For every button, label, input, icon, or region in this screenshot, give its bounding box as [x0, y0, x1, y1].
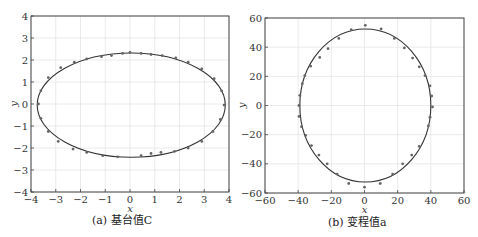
y-tick-label: 60 [249, 13, 262, 24]
data-point [418, 145, 421, 148]
data-point [300, 125, 303, 128]
data-point [57, 140, 60, 143]
data-point [429, 84, 432, 87]
data-point [85, 58, 88, 61]
data-point [213, 77, 216, 80]
data-point [304, 134, 307, 137]
data-point [403, 46, 406, 49]
data-point [380, 28, 383, 31]
x-tick-label: 4 [226, 194, 232, 205]
data-point [47, 76, 50, 79]
plot-b: −60−40−200204060−60−40−200204060xy [236, 13, 470, 216]
y-tick-label: 0 [256, 100, 262, 111]
data-point [347, 182, 350, 185]
fitted-ellipse [37, 53, 225, 157]
data-point [303, 74, 306, 77]
data-point [116, 155, 119, 158]
data-point [424, 74, 427, 77]
data-point [336, 173, 339, 176]
caption-b: (b) 变程值a [328, 213, 387, 229]
x-tick-label: −2 [73, 194, 88, 205]
data-point [100, 55, 103, 58]
x-tick-label: 20 [391, 195, 404, 206]
plot-a: −4−3−2−101234−4−3−2−101234xy [8, 11, 232, 215]
y-tick-label: −2 [13, 143, 28, 154]
data-point [161, 54, 164, 57]
data-point [200, 67, 203, 70]
y-tick-label: −40 [241, 158, 262, 169]
y-tick-label: 40 [249, 42, 262, 53]
data-point [140, 154, 143, 157]
data-point [200, 140, 203, 143]
data-point [150, 53, 153, 56]
data-point [47, 130, 50, 133]
data-point [309, 65, 312, 68]
data-point [174, 56, 177, 59]
x-tick-label: −1 [98, 194, 113, 205]
y-tick-label: 4 [22, 11, 28, 22]
y-tick-label: −3 [13, 165, 28, 176]
data-point [298, 94, 301, 97]
data-point [431, 106, 434, 109]
y-axis-label: y [8, 101, 19, 108]
data-point [337, 37, 340, 40]
x-tick-label: 3 [201, 194, 207, 205]
data-point [317, 154, 320, 157]
data-point [40, 89, 43, 92]
data-point [73, 61, 76, 64]
data-point [140, 52, 143, 55]
data-point [212, 130, 215, 133]
y-tick-label: 1 [22, 77, 28, 88]
y-tick-label: 2 [22, 55, 28, 66]
y-tick-label: 3 [22, 33, 28, 44]
data-point [410, 154, 413, 157]
y-tick-label: −60 [241, 188, 262, 199]
y-tick-label: −1 [13, 121, 28, 132]
data-point [101, 154, 104, 157]
data-point [160, 151, 163, 154]
x-tick-label: 1 [152, 194, 158, 205]
x-tick-label: −3 [48, 194, 63, 205]
data-point [121, 52, 124, 55]
data-point [129, 51, 132, 54]
data-point [40, 117, 43, 120]
y-tick-label: 20 [249, 71, 262, 82]
x-tick-label: 60 [458, 195, 471, 206]
data-point [327, 47, 330, 50]
x-tick-label: 40 [424, 195, 437, 206]
data-point [150, 152, 153, 155]
y-tick-label: −20 [241, 129, 262, 140]
data-point [318, 56, 321, 59]
data-point [427, 125, 430, 128]
data-point [301, 82, 304, 85]
data-point [310, 144, 313, 147]
data-point [350, 28, 353, 31]
y-axis-label: y [236, 102, 247, 109]
chart-canvas: −4−3−2−101234−4−3−2−101234xy −60−40−2002… [0, 0, 478, 237]
data-point [393, 37, 396, 40]
y-tick-label: −4 [13, 187, 28, 198]
data-point [37, 103, 40, 106]
data-point [401, 162, 404, 165]
data-point [219, 118, 222, 121]
data-point [187, 147, 190, 150]
data-point [223, 104, 226, 107]
x-tick-label: −20 [321, 195, 342, 206]
data-point [411, 57, 414, 60]
y-tick-label: 0 [22, 99, 28, 110]
data-point [326, 162, 329, 165]
data-point [298, 115, 301, 118]
data-point [187, 61, 190, 64]
caption-a: (a) 基台值C [92, 211, 152, 227]
data-point [364, 24, 367, 27]
data-point [418, 65, 421, 68]
data-point [430, 95, 433, 98]
data-point [110, 54, 113, 57]
data-point [391, 173, 394, 176]
data-point [220, 89, 223, 92]
data-point [59, 66, 62, 69]
data-point [363, 186, 366, 189]
data-point [429, 116, 432, 119]
x-tick-label: 2 [176, 194, 182, 205]
data-point [85, 151, 88, 154]
